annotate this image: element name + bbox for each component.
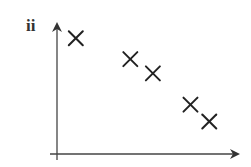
x-marker-icon (146, 66, 160, 80)
x-marker-icon (123, 52, 137, 66)
data-points (69, 31, 216, 128)
x-marker-icon (69, 31, 83, 45)
scatter-plot (0, 0, 251, 167)
x-marker-icon (202, 115, 216, 129)
x-marker-icon (183, 98, 197, 112)
